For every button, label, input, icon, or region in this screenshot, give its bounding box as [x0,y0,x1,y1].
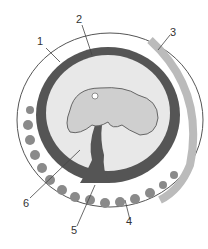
embryo-diagram [0,0,208,249]
label-5: 5 [71,225,77,236]
label-1: 1 [37,36,43,47]
label-2: 2 [76,14,82,25]
label-6: 6 [23,198,29,209]
label-4: 4 [126,216,132,227]
label-3: 3 [170,27,176,38]
heart-bulge [92,93,98,99]
